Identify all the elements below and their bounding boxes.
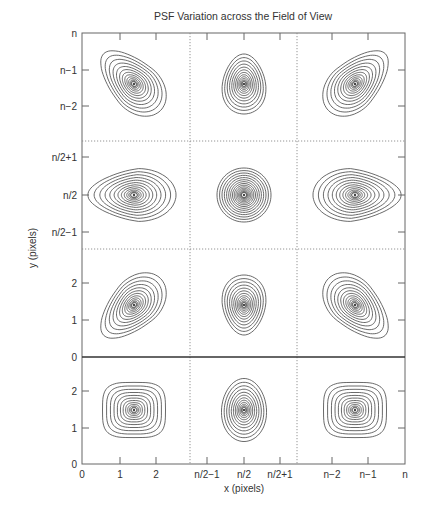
plot-area (82, 33, 405, 464)
contour-ring (318, 172, 395, 219)
psf-peak-marker (133, 304, 135, 306)
y-tick-label: n/2 (63, 190, 77, 201)
psf-contour-top-right (323, 51, 388, 116)
y-tick-label: n−1 (60, 65, 77, 76)
y-tick-label: 2 (71, 386, 77, 397)
x-axis-label: x (pixels) (224, 483, 264, 494)
x-tick-label: n−2 (324, 469, 341, 480)
psf-peak-marker (133, 194, 135, 196)
psf-peak-marker (243, 83, 245, 85)
psf-peak-marker (243, 194, 245, 196)
psf-peak-marker (354, 409, 356, 411)
psf-contour-top-center (222, 54, 266, 114)
psf-contour-lower-left (101, 273, 166, 338)
psf-contour-chart: PSF Variation across the Field of View 0… (0, 0, 427, 513)
y-tick-label: 0 (71, 352, 77, 363)
psf-contour-bottom-center (222, 379, 267, 442)
x-tick-label: 2 (153, 469, 159, 480)
psf-peak-marker (354, 194, 356, 196)
psf-peak-marker (133, 83, 135, 85)
x-tick-label: 0 (79, 469, 85, 480)
chart-title: PSF Variation across the Field of View (154, 10, 333, 22)
psf-contour-middle-right (313, 169, 401, 222)
psf-contour-lower-center (222, 275, 266, 335)
contour-ring (94, 172, 171, 219)
psf-contour-top-left (101, 51, 166, 116)
y-tick-label: 2 (71, 278, 77, 289)
y-tick-label: n/2−1 (52, 227, 78, 238)
x-tick-label: n/2−1 (194, 469, 220, 480)
x-tick-label: n−1 (360, 469, 377, 480)
y-tick-label: n (71, 28, 77, 39)
y-tick-label: 1 (71, 315, 77, 326)
x-tick-label: 1 (117, 469, 123, 480)
psf-peak-marker (243, 409, 245, 411)
x-tick-label: n/2+1 (267, 469, 293, 480)
psf-contour-middle-center (217, 168, 271, 222)
x-tick-label: n (402, 469, 408, 480)
psf-contour-bottom-right (324, 382, 387, 437)
psf-peak-marker (354, 304, 356, 306)
psf-contour-bottom-left (103, 382, 166, 437)
y-tick-label: n/2+1 (52, 152, 78, 163)
contour-ring (88, 169, 176, 222)
y-axis-label: y (pixels) (27, 228, 38, 268)
psf-contour-middle-left (88, 169, 176, 222)
y-tick-label: n−2 (60, 101, 77, 112)
contour-ring (313, 169, 401, 222)
psf-peak-marker (354, 83, 356, 85)
psf-contour-lower-right (323, 273, 388, 338)
y-tick-label: 0 (71, 459, 77, 470)
plot-frame (82, 33, 405, 464)
x-tick-label: n/2 (237, 469, 251, 480)
psf-peak-marker (243, 304, 245, 306)
psf-peak-marker (133, 409, 135, 411)
y-tick-label: 1 (71, 423, 77, 434)
